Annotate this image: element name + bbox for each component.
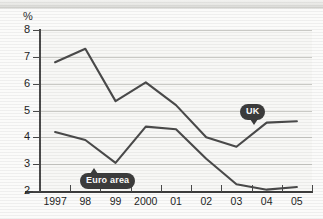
x-tick-mark	[70, 185, 71, 192]
y-tick-label: 3	[10, 157, 30, 169]
x-tick-label: 2000	[134, 195, 157, 207]
uk-callout-pointer-icon	[250, 119, 258, 125]
x-tick-mark	[161, 185, 162, 192]
x-tick-mark	[252, 185, 253, 192]
uk-callout-label: UK	[246, 106, 259, 116]
y-tick-label: 8	[10, 23, 30, 35]
x-axis-line	[25, 191, 313, 193]
x-tick-label: 03	[231, 195, 243, 207]
x-tick-mark	[282, 185, 283, 192]
y-tick-label: 7	[10, 50, 30, 62]
series-line-uk	[55, 49, 297, 147]
x-tick-label: 01	[170, 195, 182, 207]
chart-figure: % 8765432 1997989920000102030405 UK Euro…	[0, 0, 323, 219]
y-axis-unit-label: %	[23, 10, 33, 22]
x-tick-label: 98	[79, 195, 91, 207]
x-tick-label: 99	[110, 195, 122, 207]
euro-callout-pointer-icon	[90, 168, 98, 174]
y-tick-mark	[33, 191, 40, 192]
y-tick-mark	[33, 57, 40, 58]
y-tick-mark	[33, 30, 40, 31]
x-tick-mark	[191, 185, 192, 192]
x-tick-mark	[221, 185, 222, 192]
euro-callout-badge: Euro area	[80, 173, 135, 189]
y-tick-mark	[33, 111, 40, 112]
x-tick-label: 04	[261, 195, 273, 207]
x-tick-label: 05	[291, 195, 303, 207]
plot-area	[40, 30, 312, 191]
y-tick-label: 5	[10, 104, 30, 116]
y-tick-label: 4	[10, 130, 30, 142]
series-lines	[40, 30, 312, 191]
y-tick-label: 6	[10, 77, 30, 89]
x-tick-label: 1997	[43, 195, 66, 207]
x-tick-mark	[312, 185, 313, 192]
y-tick-mark	[33, 164, 40, 165]
x-tick-label: 02	[200, 195, 212, 207]
y-tick-mark	[33, 84, 40, 85]
y-tick-label: 2	[10, 184, 30, 196]
uk-callout-badge: UK	[240, 104, 265, 120]
y-tick-mark	[33, 137, 40, 138]
x-tick-mark	[40, 185, 41, 192]
scan-header-band	[0, 0, 323, 9]
euro-callout-label: Euro area	[86, 175, 129, 185]
